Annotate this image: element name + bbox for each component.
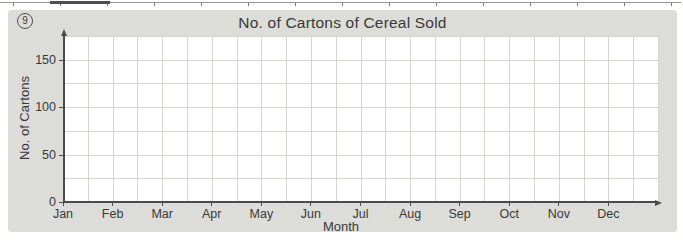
x-tick-mark: [310, 203, 311, 206]
x-tick-label: Oct: [500, 207, 519, 222]
worksheet-page: 9 No. of Cartons of Cereal Sold No. of C…: [0, 0, 683, 248]
table-border-dark-segment: [50, 1, 110, 4]
x-tick-label: Dec: [597, 207, 619, 222]
x-tick-label: Jan: [53, 207, 73, 222]
previous-table-bottom-edge: [0, 0, 683, 7]
x-tick-mark: [360, 203, 361, 206]
x-axis-label: Month: [291, 219, 391, 234]
y-axis-arrow-icon: [61, 29, 67, 36]
x-tick-mark: [459, 203, 460, 206]
x-tick-label: Nov: [548, 207, 570, 222]
x-tick-mark: [509, 203, 510, 206]
x-axis-line: [63, 201, 658, 203]
bars-layer: [63, 36, 658, 202]
table-column-dividers: [13, 2, 673, 6]
y-tick-label: 0: [18, 194, 56, 210]
x-tick-label: Sep: [449, 207, 471, 222]
chart-title: No. of Cartons of Cereal Sold: [8, 14, 677, 32]
x-tick-label: May: [250, 207, 274, 222]
y-axis-label: No. of Cartons: [17, 58, 33, 178]
x-tick-mark: [410, 203, 411, 206]
x-tick-mark: [261, 203, 262, 206]
x-tick-label: Aug: [399, 207, 421, 222]
x-tick-label: Apr: [202, 207, 221, 222]
plot-area: [63, 36, 659, 202]
x-tick-mark: [211, 203, 212, 206]
y-axis-line: [63, 36, 65, 202]
x-tick-mark: [558, 203, 559, 206]
x-tick-mark: [112, 203, 113, 206]
x-tick-label: Mar: [151, 207, 173, 222]
x-tick-mark: [162, 203, 163, 206]
x-tick-label: Feb: [102, 207, 124, 222]
x-tick-mark: [608, 203, 609, 206]
chart-panel: 9 No. of Cartons of Cereal Sold No. of C…: [8, 10, 677, 232]
x-tick-mark: [63, 203, 64, 206]
x-axis-arrow-icon: [655, 200, 662, 206]
